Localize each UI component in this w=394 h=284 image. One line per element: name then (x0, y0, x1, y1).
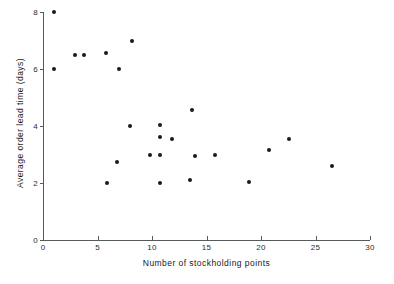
y-tick-mark (40, 183, 44, 184)
x-tick-mark (152, 236, 153, 240)
data-point (128, 124, 132, 128)
x-tick-label: 0 (41, 243, 46, 252)
x-axis-line (43, 240, 370, 241)
y-tick-mark (40, 69, 44, 70)
y-tick-label: 2 (33, 179, 38, 188)
data-point (115, 160, 119, 164)
data-point (330, 164, 334, 168)
data-point (130, 39, 134, 43)
data-point (213, 153, 217, 157)
data-point (267, 148, 271, 152)
data-point (158, 123, 162, 127)
y-axis-title: Average order lead time (days) (15, 8, 25, 238)
y-tick-label: 8 (33, 8, 38, 17)
x-tick-mark (207, 236, 208, 240)
x-tick-mark (370, 236, 371, 240)
y-tick-label: 4 (33, 122, 38, 131)
data-point (158, 153, 162, 157)
data-point (158, 135, 162, 139)
data-point (73, 53, 77, 57)
data-point (117, 67, 121, 71)
x-tick-mark (316, 236, 317, 240)
x-tick-label: 20 (256, 243, 265, 252)
x-tick-mark (261, 236, 262, 240)
y-tick-label: 6 (33, 65, 38, 74)
data-point (158, 181, 162, 185)
y-tick-mark (40, 12, 44, 13)
x-tick-label: 10 (147, 243, 156, 252)
plot-area: 051015202530 02468 (0, 0, 394, 284)
x-tick-label: 5 (95, 243, 100, 252)
x-axis-title: Number of stockholding points (43, 258, 370, 268)
data-point (170, 137, 174, 141)
data-point (105, 181, 109, 185)
y-tick-mark (40, 240, 44, 241)
x-tick-label: 15 (202, 243, 211, 252)
x-tick-label: 30 (365, 243, 374, 252)
data-point (193, 154, 197, 158)
data-point (247, 180, 251, 184)
y-tick-label: 0 (33, 236, 38, 245)
data-point (52, 67, 56, 71)
data-point (148, 153, 152, 157)
data-point (190, 108, 194, 112)
x-tick-label: 25 (311, 243, 320, 252)
data-point (104, 51, 108, 55)
data-point (188, 178, 192, 182)
x-tick-mark (98, 236, 99, 240)
data-point (287, 137, 291, 141)
data-point (52, 10, 56, 14)
data-point (82, 53, 86, 57)
scatter-plot-figure: 051015202530 02468 Number of stockholdin… (0, 0, 394, 284)
y-tick-mark (40, 126, 44, 127)
